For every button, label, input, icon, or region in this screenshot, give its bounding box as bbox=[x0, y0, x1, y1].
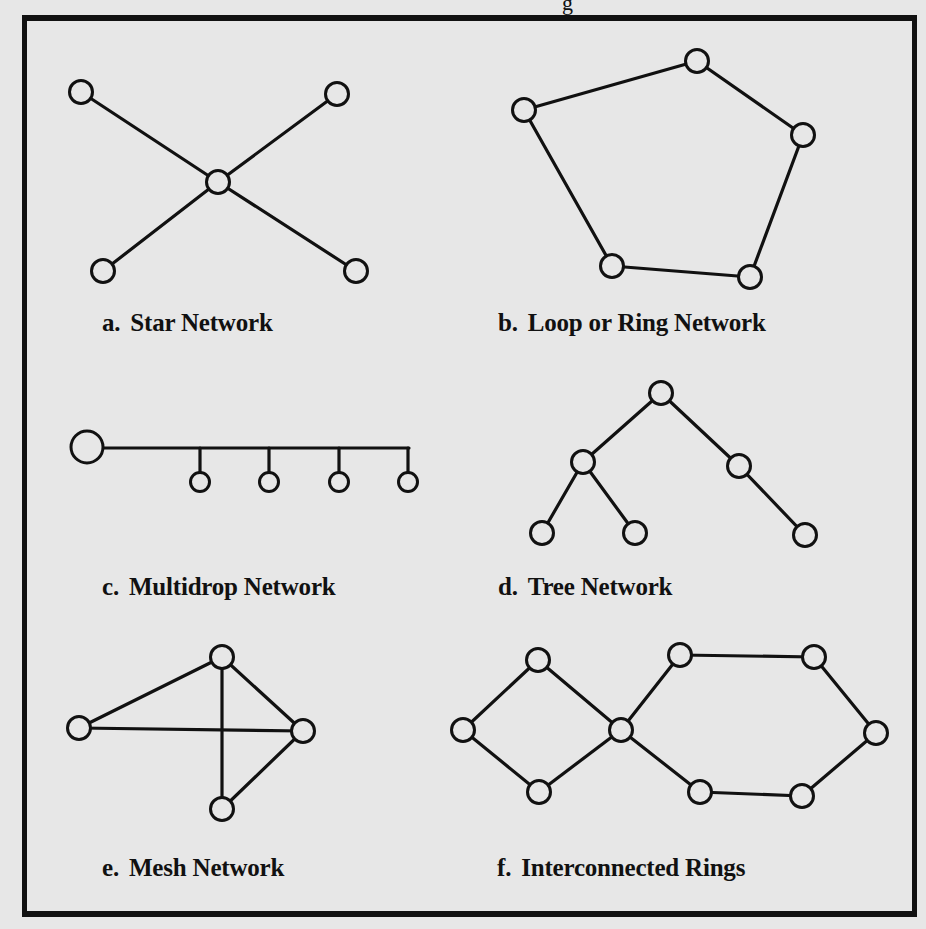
node-d bbox=[794, 524, 817, 547]
node-d bbox=[650, 382, 673, 405]
edge-a bbox=[218, 94, 337, 182]
edge-b bbox=[750, 135, 803, 277]
node-d bbox=[624, 522, 647, 545]
node-c bbox=[71, 431, 103, 463]
node-a bbox=[92, 260, 115, 283]
node-d bbox=[572, 451, 595, 474]
node-a bbox=[326, 83, 349, 106]
edge-e bbox=[79, 657, 222, 728]
caption-title: Tree Network bbox=[528, 573, 673, 600]
edge-f bbox=[538, 660, 621, 730]
caption-letter: a. bbox=[102, 309, 120, 336]
node-c bbox=[399, 473, 418, 492]
caption-ring-network: b.Loop or Ring Network bbox=[498, 310, 766, 335]
caption-letter: c. bbox=[102, 573, 119, 600]
edge-f bbox=[463, 730, 539, 792]
node-f bbox=[528, 781, 551, 804]
node-f bbox=[791, 785, 814, 808]
edge-d bbox=[661, 393, 739, 466]
node-b bbox=[513, 99, 536, 122]
node-b bbox=[792, 124, 815, 147]
edge-e bbox=[222, 657, 303, 731]
caption-star-network: a.Star Network bbox=[102, 310, 273, 335]
caption-title: Multidrop Network bbox=[129, 573, 336, 600]
node-f bbox=[610, 719, 633, 742]
node-f bbox=[803, 646, 826, 669]
node-a bbox=[207, 171, 230, 194]
edge-b bbox=[524, 110, 612, 266]
network-diagrams bbox=[0, 0, 926, 929]
caption-tree-network: d.Tree Network bbox=[498, 574, 672, 599]
node-f bbox=[865, 722, 888, 745]
node-d bbox=[531, 522, 554, 545]
node-a bbox=[70, 81, 93, 104]
caption-multidrop-network: c.Multidrop Network bbox=[102, 574, 336, 599]
edge-f bbox=[463, 660, 538, 730]
edge-a bbox=[218, 182, 356, 271]
edge-f bbox=[700, 792, 802, 796]
node-b bbox=[739, 266, 762, 289]
node-e bbox=[211, 798, 234, 821]
edges-layer bbox=[79, 61, 876, 809]
node-f bbox=[689, 781, 712, 804]
caption-interconnected-rings: f.Interconnected Rings bbox=[497, 855, 745, 880]
node-c bbox=[330, 473, 349, 492]
edge-e bbox=[222, 731, 303, 809]
node-f bbox=[669, 644, 692, 667]
edge-f bbox=[814, 657, 876, 733]
edge-f bbox=[680, 655, 814, 657]
caption-letter: d. bbox=[498, 573, 518, 600]
node-a bbox=[345, 260, 368, 283]
node-e bbox=[211, 646, 234, 669]
node-e bbox=[292, 720, 315, 743]
node-c bbox=[260, 473, 279, 492]
node-e bbox=[68, 717, 91, 740]
edge-a bbox=[103, 182, 218, 271]
caption-letter: b. bbox=[498, 309, 518, 336]
node-b bbox=[686, 50, 709, 73]
node-b bbox=[601, 255, 624, 278]
node-d bbox=[728, 455, 751, 478]
edge-f bbox=[539, 730, 621, 792]
caption-title: Mesh Network bbox=[129, 854, 284, 881]
edge-b bbox=[524, 61, 697, 110]
edge-d bbox=[583, 393, 661, 462]
edge-f bbox=[621, 730, 700, 792]
caption-letter: f. bbox=[497, 854, 511, 881]
edge-d bbox=[583, 462, 635, 533]
caption-title: Interconnected Rings bbox=[521, 854, 745, 881]
node-f bbox=[452, 719, 475, 742]
edge-b bbox=[697, 61, 803, 135]
edge-e bbox=[79, 728, 303, 731]
node-f bbox=[527, 649, 550, 672]
caption-mesh-network: e.Mesh Network bbox=[102, 855, 284, 880]
edge-f bbox=[802, 733, 876, 796]
edge-a bbox=[81, 92, 218, 182]
node-c bbox=[191, 473, 210, 492]
caption-title: Star Network bbox=[130, 309, 272, 336]
edge-b bbox=[612, 266, 750, 277]
edge-d bbox=[739, 466, 805, 535]
multidrop-bus bbox=[103, 448, 409, 472]
caption-letter: e. bbox=[102, 854, 119, 881]
edge-f bbox=[621, 655, 680, 730]
caption-title: Loop or Ring Network bbox=[528, 309, 766, 336]
